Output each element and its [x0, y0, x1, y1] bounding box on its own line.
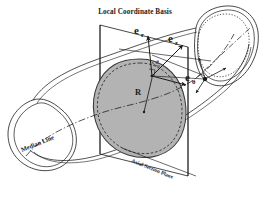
figure-title: Local Coordinate Basis [98, 8, 172, 16]
cross-section-fill [93, 59, 186, 158]
basis-origin-dot [151, 75, 154, 78]
cross-section [93, 59, 186, 158]
secondary-vector-up [199, 58, 205, 79]
secondary-vector-right [205, 68, 226, 79]
label-radius: R [135, 87, 142, 97]
label-median-line: Median Line [20, 133, 55, 153]
label-axial-section-plane: Axial Section Plane [131, 157, 175, 180]
label-e-z-base: e [168, 32, 173, 44]
radius-center-dot [143, 111, 145, 113]
right-cap-hidden-dotted [198, 14, 249, 77]
label-e-theta-subscript: θ [192, 78, 196, 85]
label-e-r: e r [134, 24, 144, 38]
right-cap-inner [198, 10, 255, 81]
label-e-z-subscript: z [175, 39, 178, 46]
tube-left-end-cap [8, 99, 76, 171]
label-e-r-subscript: r [141, 31, 144, 38]
secondary-vector-down [196, 79, 205, 93]
contact-point-dot [203, 77, 207, 81]
label-e-r-base: e [134, 24, 139, 36]
figure-root: Local Coordinate Basis e r e z e θ R θ M… [0, 0, 264, 201]
left-cap-inner [14, 103, 73, 167]
label-angle-theta: θ [156, 59, 159, 65]
label-e-theta-base: e [185, 71, 190, 83]
technical-diagram: Local Coordinate Basis e r e z e θ R θ M… [0, 0, 264, 201]
left-cap-outer [8, 99, 76, 171]
